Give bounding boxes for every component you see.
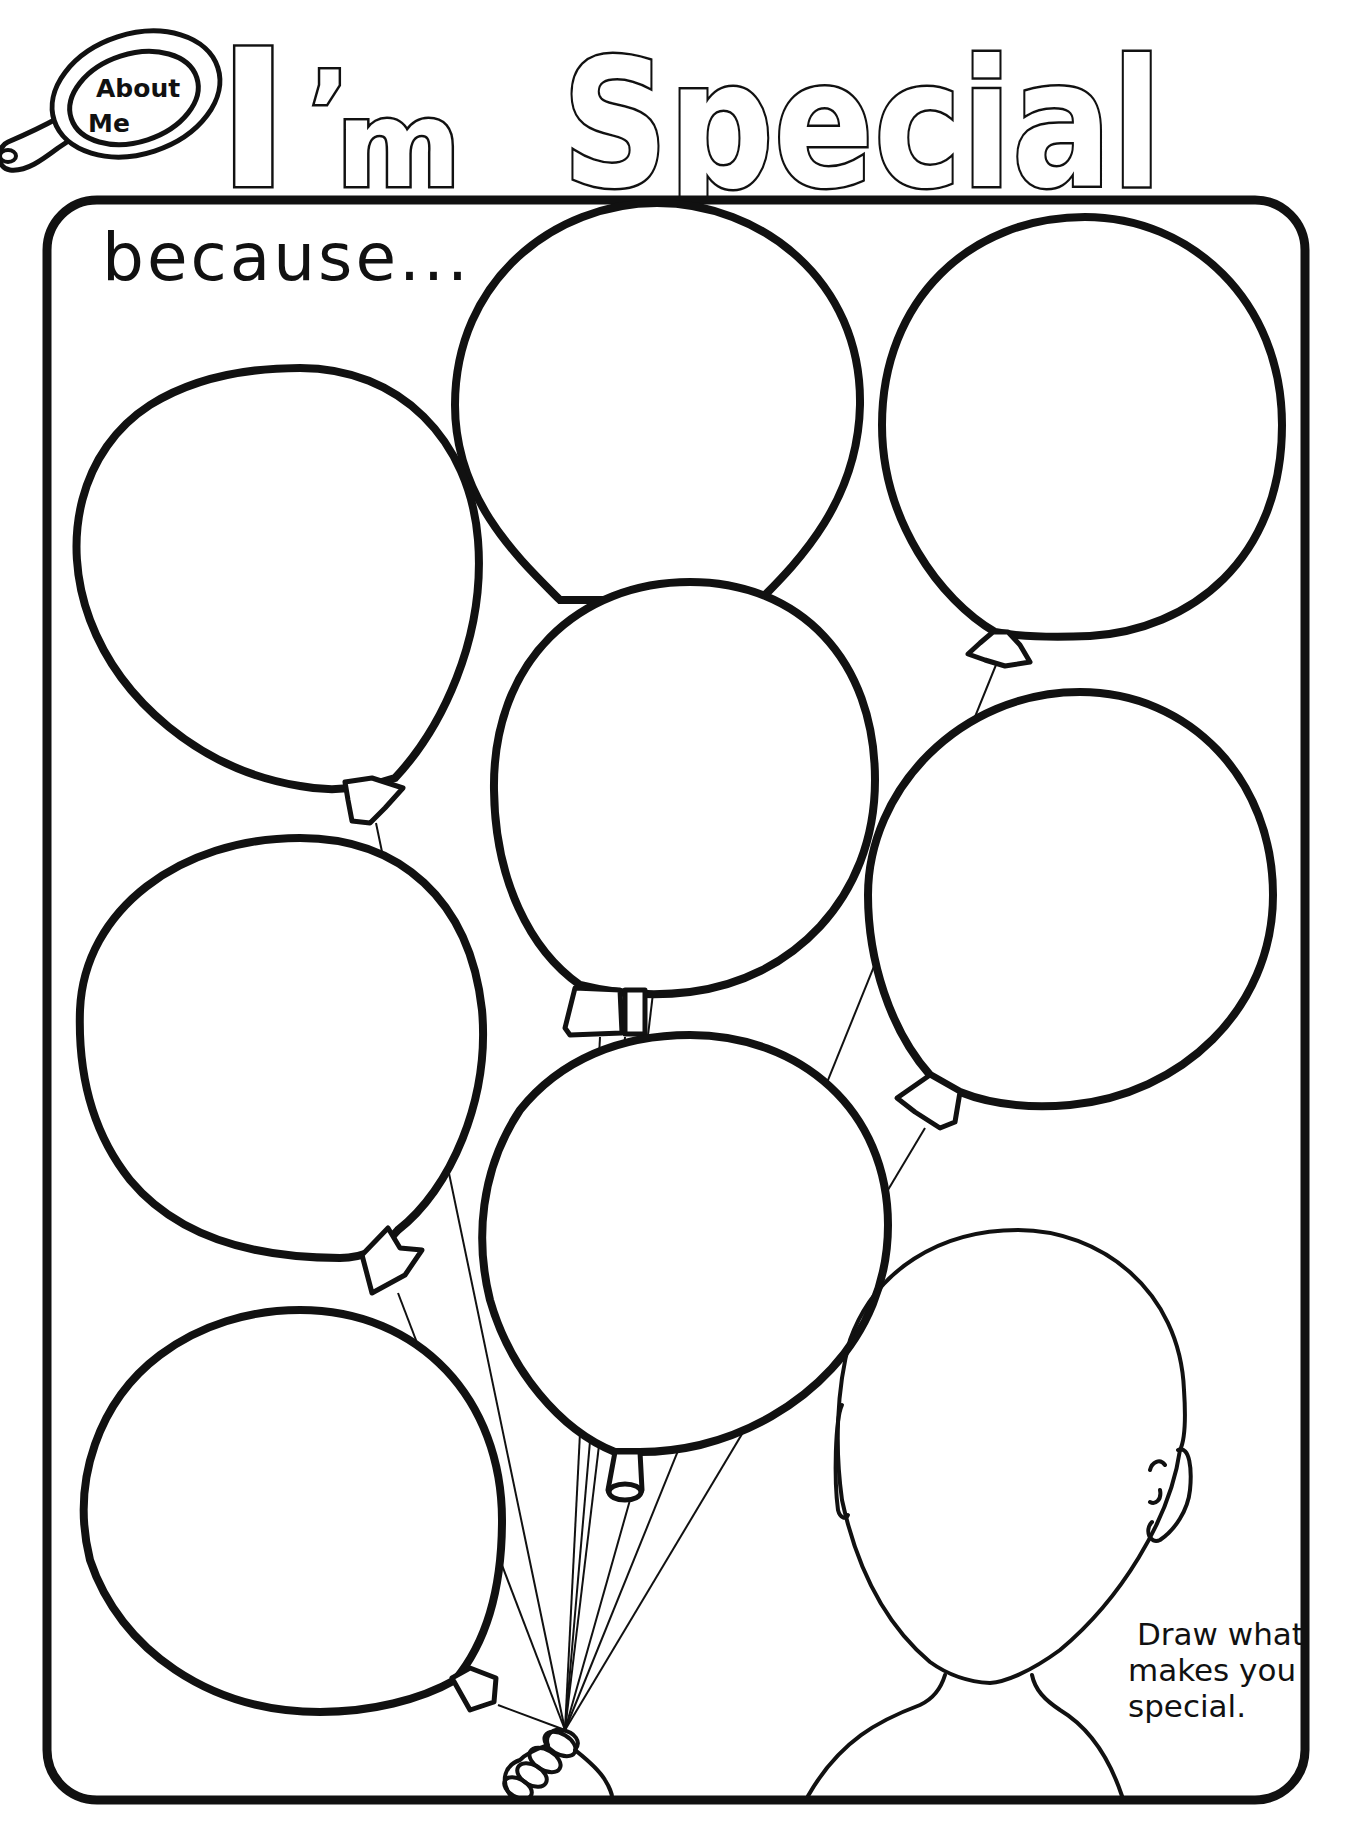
balloon-top-center[interactable]	[455, 203, 860, 600]
instruction-line-2: makes you	[1128, 1652, 1296, 1688]
instruction-line-3: special.	[1128, 1688, 1246, 1724]
title-letter-m: m	[336, 75, 461, 214]
about-me-badge: About Me	[0, 10, 236, 177]
instruction-line-1: Draw what	[1137, 1616, 1304, 1652]
badge-line-me: Me	[88, 109, 130, 138]
balloon-left-bottom[interactable]	[84, 1310, 502, 1712]
worksheet: About Me I ’ m Special because...	[0, 0, 1348, 1822]
prompt-because: because...	[102, 219, 471, 296]
badge-line-about: About	[96, 74, 180, 103]
